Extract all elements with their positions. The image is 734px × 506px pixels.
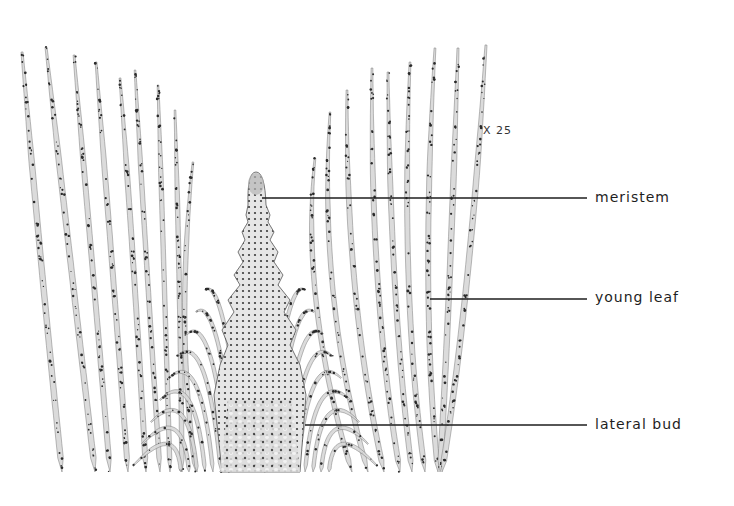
label-meristem: meristem xyxy=(595,190,670,204)
shoot-apex-diagram: X 25 meristem young leaf lateral bud xyxy=(0,0,734,506)
label-young-leaf: young leaf xyxy=(595,290,679,304)
meristem-apex xyxy=(214,172,306,472)
label-lateral-bud: lateral bud xyxy=(595,417,682,431)
magnification-label: X 25 xyxy=(483,124,512,137)
